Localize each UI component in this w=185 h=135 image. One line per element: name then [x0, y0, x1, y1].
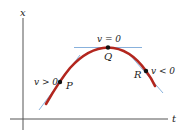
- point-q-marker: [106, 45, 110, 49]
- horizontal-axis-label: t: [172, 113, 177, 124]
- point-r-marker: [144, 69, 148, 73]
- point-p: P v > 0: [34, 77, 73, 91]
- point-p-velocity-label: v > 0: [34, 77, 58, 87]
- point-r-velocity-label: v < 0: [151, 66, 175, 76]
- point-p-marker: [58, 80, 62, 84]
- vertical-axis-label: x: [20, 7, 26, 18]
- point-r: R v < 0: [133, 66, 175, 80]
- point-q-label: Q: [104, 51, 112, 62]
- point-r-label: R: [133, 69, 142, 80]
- point-q-velocity-label: v = 0: [97, 34, 121, 44]
- position-time-diagram: x t P v > 0 Q v = 0 R v < 0: [0, 0, 185, 135]
- point-p-label: P: [65, 80, 73, 91]
